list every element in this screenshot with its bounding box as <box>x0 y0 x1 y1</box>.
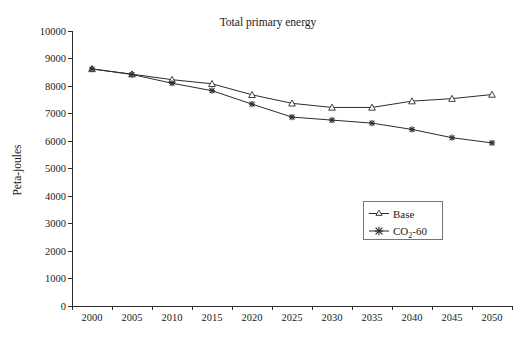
data-point-marker <box>489 140 495 146</box>
x-axis-tick-labels: 2000200520102015202020252030203520402045… <box>82 312 503 323</box>
legend-label-base: Base <box>393 208 415 220</box>
data-point-marker <box>369 120 375 126</box>
data-point-marker <box>169 80 175 86</box>
data-point-marker <box>89 66 95 72</box>
data-point-marker <box>449 135 455 141</box>
x-tick-label: 2005 <box>122 312 143 323</box>
x-tick-label: 2015 <box>202 312 223 323</box>
x-tick-label: 2045 <box>442 312 463 323</box>
y-axis-tick-marks <box>68 31 72 306</box>
data-point-marker <box>249 101 255 107</box>
data-point-marker <box>289 114 295 120</box>
y-axis-tick-labels: 1000090008000700060005000400030002000100… <box>40 26 66 312</box>
x-tick-label: 2035 <box>362 312 383 323</box>
y-tick-label: 5000 <box>45 163 66 174</box>
x-tick-label: 2050 <box>482 312 503 323</box>
data-point-marker <box>129 71 135 77</box>
x-tick-label: 2000 <box>82 312 103 323</box>
x-marker-icon <box>375 227 383 235</box>
y-tick-label: 4000 <box>45 191 66 202</box>
chart-title: Total primary energy <box>220 16 317 29</box>
x-tick-label: 2010 <box>162 312 183 323</box>
series-markers-base <box>89 66 496 111</box>
y-tick-label: 2000 <box>45 246 66 257</box>
data-point-marker <box>209 88 215 94</box>
x-tick-label: 2020 <box>242 312 263 323</box>
y-tick-label: 9000 <box>45 53 66 64</box>
data-point-marker <box>329 117 335 123</box>
line-chart: Total primary energy Peta-joules 1000090… <box>0 0 526 340</box>
y-axis-label: Peta-joules <box>11 144 24 196</box>
y-tick-label: 10000 <box>40 26 66 37</box>
y-tick-label: 1000 <box>45 273 66 284</box>
x-tick-label: 2030 <box>322 312 343 323</box>
data-point-marker <box>489 91 496 97</box>
y-tick-label: 8000 <box>45 81 66 92</box>
y-tick-label: 6000 <box>45 136 66 147</box>
y-tick-label: 3000 <box>45 218 66 229</box>
data-point-marker <box>409 126 415 132</box>
x-tick-label: 2040 <box>402 312 423 323</box>
x-tick-label: 2025 <box>282 312 303 323</box>
chart-legend: Base CO2-60 <box>364 202 443 241</box>
y-tick-label: 7000 <box>45 108 66 119</box>
y-tick-label: 0 <box>61 301 66 312</box>
chart-container: Total primary energy Peta-joules 1000090… <box>0 0 526 340</box>
x-axis-tick-marks <box>72 306 512 310</box>
